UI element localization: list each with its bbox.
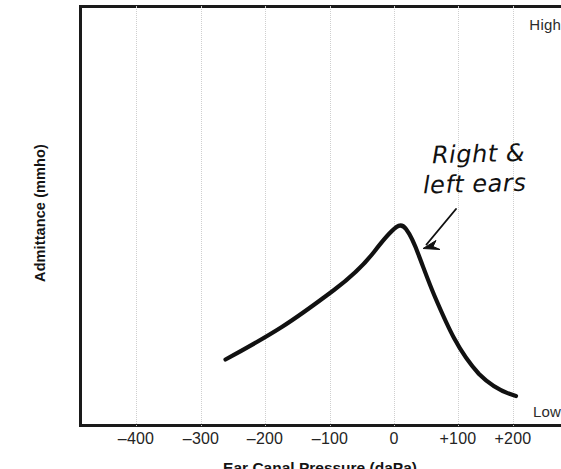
x-tick-label-plus-200: +200 — [478, 430, 548, 448]
x-axis-title: Ear Canal Pressure (daPa) — [79, 459, 561, 469]
tympanogram-figure: Admittance (mmho) High Low –400 –300 –20… — [0, 0, 561, 469]
x-tick-label-zero: 0 — [359, 430, 429, 448]
y-axis-high-label: High — [489, 16, 561, 33]
y-axis-title: Admittance (mmho) — [32, 113, 48, 313]
x-tick-label-minus-300: –300 — [166, 430, 236, 448]
plot-area — [79, 5, 561, 427]
y-axis-low-label: Low — [489, 403, 561, 420]
x-tick-label-minus-100: –100 — [295, 430, 365, 448]
annotation-text-line-2: left ears — [423, 171, 527, 200]
x-tick-label-minus-400: –400 — [101, 430, 171, 448]
annotation-text-line-1: Right & — [432, 141, 526, 169]
x-tick-label-minus-200: –200 — [230, 430, 300, 448]
